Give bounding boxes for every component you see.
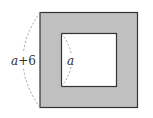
inner-side-label: a — [67, 54, 74, 68]
square-frame-diagram: a+6 a — [0, 0, 153, 118]
outer-side-label: a+6 — [11, 54, 36, 68]
